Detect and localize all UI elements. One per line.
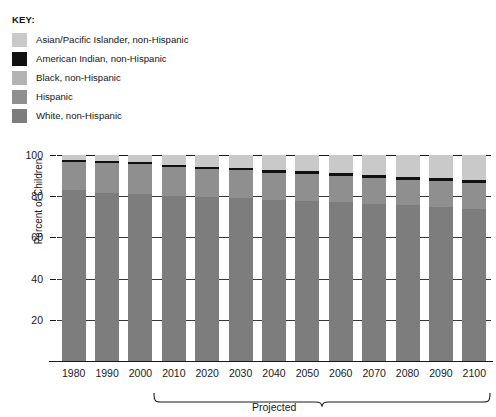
x-tick-label-2030: 2030 xyxy=(223,368,259,379)
bar-segment xyxy=(62,190,86,361)
legend-swatch-black xyxy=(12,71,27,85)
bar-segment xyxy=(95,155,119,161)
bar-2000 xyxy=(128,155,152,361)
x-tick-label-2050: 2050 xyxy=(289,368,325,379)
bar-segment xyxy=(295,201,319,361)
bar-segment xyxy=(396,155,420,177)
bar-segment xyxy=(429,207,453,362)
bar-2060 xyxy=(329,155,353,361)
y-tick-label-20: 20 xyxy=(15,315,43,325)
x-tick-label-1990: 1990 xyxy=(89,368,125,379)
bar-segment xyxy=(429,178,453,180)
bar-segment xyxy=(462,155,486,180)
bar-1990 xyxy=(95,155,119,361)
bar-segment xyxy=(396,205,420,361)
legend-swatch-american_indian xyxy=(12,52,27,66)
projected-label: Projected xyxy=(252,401,392,413)
bar-segment xyxy=(195,197,219,361)
legend-item-hispanic: Hispanic xyxy=(12,88,312,106)
bar-segment xyxy=(62,155,86,160)
bar-segment xyxy=(362,155,386,175)
x-tick-label-2090: 2090 xyxy=(423,368,459,379)
bar-segment xyxy=(128,194,152,361)
bar-2040 xyxy=(262,155,286,361)
bar-segment xyxy=(162,196,186,361)
bar-2070 xyxy=(362,155,386,361)
bar-2090 xyxy=(429,155,453,361)
bar-segment xyxy=(329,155,353,173)
y-tick-mark-100 xyxy=(50,155,56,156)
bar-segment xyxy=(329,176,353,203)
bar-segment xyxy=(462,180,486,182)
legend-item-american_indian: American Indian, non-Hispanic xyxy=(12,50,312,68)
bar-segment xyxy=(229,155,253,168)
bar-segment xyxy=(362,175,386,177)
bar-segment xyxy=(195,169,219,197)
bar-segment xyxy=(462,183,486,209)
bar-segment xyxy=(396,180,420,206)
bar-segment xyxy=(229,198,253,361)
bar-segment xyxy=(329,173,353,175)
bar-segment xyxy=(162,155,186,165)
bar-segment xyxy=(295,171,319,173)
x-tick-label-2020: 2020 xyxy=(189,368,225,379)
legend-label-black: Black, non-Hispanic xyxy=(36,72,121,84)
y-tick-mark-60 xyxy=(50,237,56,238)
bar-segment xyxy=(195,155,219,167)
plot-area: 20406080100 xyxy=(57,155,491,361)
bar-segment xyxy=(95,163,119,193)
x-axis-line xyxy=(49,361,493,362)
x-tick-label-2060: 2060 xyxy=(323,368,359,379)
legend-item-asian: Asian/Pacific Islander, non-Hispanic xyxy=(12,31,312,49)
legend-label-american_indian: American Indian, non-Hispanic xyxy=(36,53,167,65)
bar-segment xyxy=(362,178,386,205)
bar-2080 xyxy=(396,155,420,361)
bar-segment xyxy=(295,174,319,202)
y-tick-label-80: 80 xyxy=(15,191,43,201)
bar-segment xyxy=(262,170,286,172)
bar-segment xyxy=(229,168,253,170)
bar-2020 xyxy=(195,155,219,361)
bar-segment xyxy=(396,177,420,179)
y-tick-mark-40 xyxy=(50,279,56,280)
x-tick-label-2070: 2070 xyxy=(356,368,392,379)
bar-1980 xyxy=(62,155,86,361)
x-tick-label-1980: 1980 xyxy=(56,368,92,379)
y-tick-mark-20 xyxy=(50,320,56,321)
legend-swatch-hispanic xyxy=(12,90,27,104)
bar-segment xyxy=(462,209,486,361)
legend-label-hispanic: Hispanic xyxy=(36,91,73,103)
legend-title: KEY: xyxy=(12,14,312,25)
bar-segment xyxy=(262,200,286,361)
bar-segment xyxy=(162,165,186,167)
legend-swatch-asian xyxy=(12,33,27,47)
bar-segment xyxy=(95,193,119,361)
y-tick-label-40: 40 xyxy=(15,274,43,284)
legend-label-asian: Asian/Pacific Islander, non-Hispanic xyxy=(36,34,189,46)
legend-label-white: White, non-Hispanic xyxy=(36,110,122,122)
bar-segment xyxy=(128,162,152,164)
y-tick-label-60: 60 xyxy=(15,232,43,242)
bar-segment xyxy=(128,164,152,194)
bar-segment xyxy=(229,170,253,198)
bar-segment xyxy=(429,181,453,207)
legend: KEY: Asian/Pacific Islander, non-Hispani… xyxy=(12,14,312,126)
legend-swatch-white xyxy=(12,109,27,123)
bar-segment xyxy=(295,155,319,171)
bar-segment xyxy=(62,162,86,190)
bar-segment xyxy=(128,155,152,162)
x-tick-label-2100: 2100 xyxy=(456,368,492,379)
bar-segment xyxy=(162,167,186,196)
bar-segment xyxy=(195,167,219,169)
bar-2010 xyxy=(162,155,186,361)
bar-segment xyxy=(95,161,119,163)
legend-item-black: Black, non-Hispanic xyxy=(12,69,312,87)
bar-segment xyxy=(429,155,453,178)
y-tick-label-100: 100 xyxy=(15,150,43,160)
x-tick-label-2080: 2080 xyxy=(390,368,426,379)
bar-segment xyxy=(362,204,386,361)
x-tick-label-2010: 2010 xyxy=(156,368,192,379)
bar-segment xyxy=(62,160,86,162)
y-tick-mark-80 xyxy=(50,196,56,197)
legend-items: Asian/Pacific Islander, non-HispanicAmer… xyxy=(12,31,312,125)
